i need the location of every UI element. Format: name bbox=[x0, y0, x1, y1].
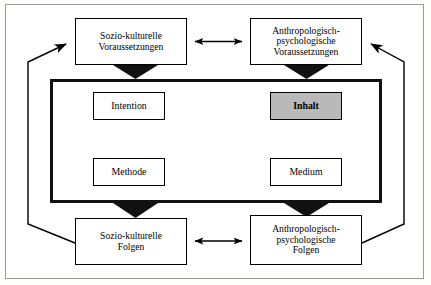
node-label: Inhalt bbox=[291, 101, 321, 112]
node-sozio-kulturelle-voraussetzungen[interactable]: Sozio-kulturelle Voraussetzungen bbox=[75, 18, 187, 65]
node-label: Sozio-kulturelle Voraussetzungen bbox=[97, 31, 166, 52]
node-inhalt[interactable]: Inhalt bbox=[270, 92, 342, 120]
node-label: Anthropologisch- psychologische Folgen bbox=[270, 224, 342, 255]
thick-arrow-down-sk-folgen bbox=[113, 203, 158, 218]
node-label: Sozio-kulturelle Folgen bbox=[98, 231, 164, 252]
node-label: Intention bbox=[109, 101, 148, 112]
node-intention[interactable]: Intention bbox=[93, 92, 165, 120]
node-label: Methode bbox=[110, 167, 149, 178]
node-methode[interactable]: Methode bbox=[93, 158, 165, 186]
diagram-page: Sozio-kulturelle Voraussetzungen Anthrop… bbox=[0, 0, 431, 285]
node-label: Medium bbox=[287, 167, 324, 178]
node-anthropologisch-psychologische-folgen[interactable]: Anthropologisch- psychologische Folgen bbox=[250, 215, 362, 265]
thick-arrow-down-ap-voraussetzungen bbox=[284, 65, 329, 79]
node-sozio-kulturelle-folgen[interactable]: Sozio-kulturelle Folgen bbox=[75, 218, 187, 265]
node-anthropologisch-psychologische-voraussetzungen[interactable]: Anthropologisch- psychologische Vorausse… bbox=[250, 18, 362, 65]
thick-arrow-down-sk-voraussetzungen bbox=[113, 65, 158, 79]
node-label: Anthropologisch- psychologische Vorausse… bbox=[270, 26, 342, 57]
node-medium[interactable]: Medium bbox=[270, 158, 342, 186]
